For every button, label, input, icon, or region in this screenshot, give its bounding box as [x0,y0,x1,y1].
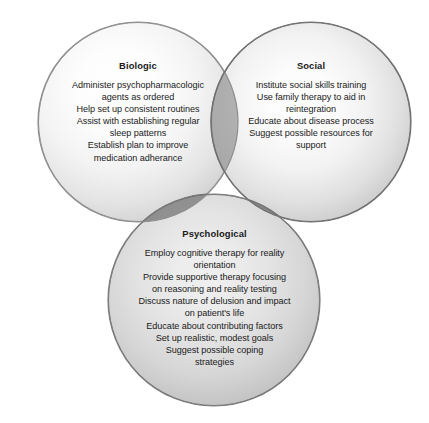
venn-item-list-biologic: Administer psychopharmacologic agents as… [40,79,236,164]
venn-item: Set up realistic, modest goals [113,332,316,344]
venn-title-biologic: Biologic [40,60,236,72]
venn-title-psychological: Psychological [113,228,316,240]
venn-label-group-social: Social Institute social skills training … [221,60,401,152]
venn-item-list-social: Institute social skills training Use fam… [221,79,401,152]
venn-item: Employ cognitive therapy for reality ori… [113,247,316,271]
venn-item: Discuss nature of delusion and impact on… [113,295,316,319]
venn-item: Use family therapy to aid in reintegrati… [221,91,401,115]
venn-diagram: Biologic Administer psychopharmacologic … [0,0,429,423]
venn-item: Establish plan to improve medication adh… [40,139,236,163]
venn-item: Administer psychopharmacologic agents as… [40,79,236,103]
venn-item-list-psychological: Employ cognitive therapy for reality ori… [113,247,316,368]
venn-item: Provide supportive therapy focusing on r… [113,271,316,295]
venn-item: Suggest possible coping strategies [113,344,316,368]
venn-item: Educate about contributing factors [113,320,316,332]
venn-label-group-psychological: Psychological Employ cognitive therapy f… [113,228,316,368]
venn-item: Help set up consistent routines [40,103,236,115]
venn-item: Educate about disease process [221,115,401,127]
venn-title-social: Social [221,60,401,72]
venn-item: Assist with establishing regular sleep p… [40,115,236,139]
venn-label-group-biologic: Biologic Administer psychopharmacologic … [40,60,236,164]
venn-item: Institute social skills training [221,79,401,91]
venn-item: Suggest possible resources for support [221,127,401,151]
